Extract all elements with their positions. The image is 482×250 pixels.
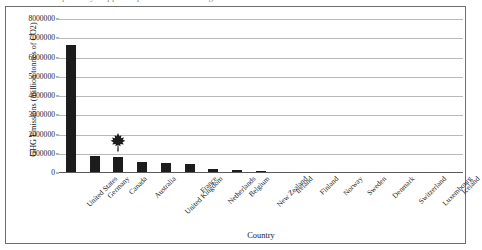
y-axis-tick-label: 2000000 — [28, 131, 55, 139]
bar-slot — [273, 19, 297, 173]
bar-slot — [415, 19, 439, 173]
plot-area: 8000000700000060000005000000400000030000… — [59, 19, 463, 173]
x-axis-tick-label: Denmark — [391, 175, 416, 200]
bar-slot — [344, 19, 368, 173]
y-axis-tick-label: 5000000 — [28, 73, 55, 81]
bar-slot — [297, 19, 321, 173]
x-axis-tick-label: Norway — [342, 175, 364, 197]
y-axis-tick-label: 4000000 — [28, 92, 55, 100]
x-axis-tick-label: Australia — [153, 175, 177, 199]
bar[interactable] — [113, 157, 123, 173]
bar-slot — [178, 19, 202, 173]
x-axis-tick-label: Sweden — [366, 175, 388, 197]
bar-slot — [107, 19, 131, 173]
chart-figure-frame: GHG Emissions (million tonnes of CO2) 80… — [5, 6, 466, 244]
bar-slot — [392, 19, 416, 173]
bar-slot — [368, 19, 392, 173]
bar[interactable] — [90, 156, 100, 173]
y-axis-tick-label: 7000000 — [28, 34, 55, 42]
y-axis-tick-label: 3000000 — [28, 111, 55, 119]
bar-slot — [83, 19, 107, 173]
bar-slot — [154, 19, 178, 173]
x-axis-tick-label: Canada — [128, 175, 149, 196]
x-axis-tick-label: Finland — [318, 175, 339, 196]
bar-slot — [202, 19, 226, 173]
y-axis-tick-label: 8000000 — [28, 15, 55, 23]
bar-slot — [225, 19, 249, 173]
bar-slot — [439, 19, 463, 173]
x-axis-tick-labels: United StatesGermanyCanadaAustraliaUnite… — [59, 175, 463, 231]
bar-slot — [249, 19, 273, 173]
x-axis-tick-label: Ireland — [294, 175, 314, 195]
x-axis-baseline — [59, 172, 463, 173]
y-axis-tick-label: 6000000 — [28, 54, 55, 62]
bar[interactable] — [66, 45, 76, 173]
bar-slot — [320, 19, 344, 173]
y-axis-tick-label: 0 — [51, 169, 55, 177]
clipped-caption-text: partially clipped caption line above fig… — [62, 0, 226, 2]
x-axis-title: Country — [59, 231, 463, 240]
y-axis-tick-label: 1000000 — [28, 150, 55, 158]
bar-slot — [130, 19, 154, 173]
bars-layer — [59, 19, 463, 173]
bar-slot — [59, 19, 83, 173]
